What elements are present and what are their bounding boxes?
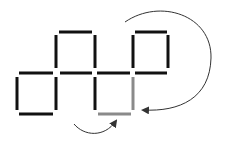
- small-curved-arrow: [74, 121, 116, 133]
- matchstick-diagram: [0, 0, 225, 144]
